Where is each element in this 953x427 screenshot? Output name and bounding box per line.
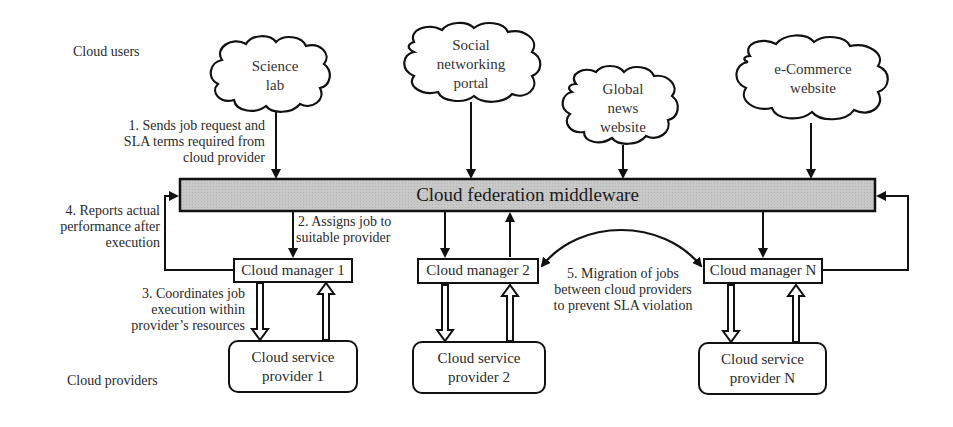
label-cloud-providers: Cloud providers: [67, 373, 158, 389]
cloud-manager-n: Cloud manager N: [703, 258, 823, 284]
cloud-service-provider-1: Cloud service provider 1: [228, 340, 358, 393]
hollow-arrow-down-n: [723, 285, 739, 342]
step-4-label: 4. Reports actual performance after exec…: [30, 203, 160, 251]
step-1-label: 1. Sends job request and SLA terms requi…: [95, 118, 265, 166]
cloud-service-provider-2: Cloud service provider 2: [412, 341, 546, 394]
cloud-global-news-text: Global news website: [583, 80, 663, 137]
cloud-social-networking-text: Social networking portal: [421, 36, 521, 93]
middleware-title: Cloud federation middleware: [180, 184, 875, 206]
hollow-arrow-down-2: [437, 285, 453, 341]
step-5-label: 5. Migration of jobs between cloud provi…: [538, 266, 708, 314]
migration-arrow: [542, 230, 701, 266]
step-2-label: 2. Assigns job to suitable provider: [296, 214, 416, 246]
step-3-label: 3. Coordinates job execution within prov…: [100, 286, 245, 334]
cloud-ecommerce-text: e-Commerce website: [763, 60, 863, 98]
hollow-arrow-up-2: [502, 285, 518, 341]
hollow-arrow-up-1: [318, 283, 334, 340]
cloud-science-lab-text: Science lab: [235, 57, 315, 95]
cloud-manager-1: Cloud manager 1: [233, 258, 353, 283]
hollow-arrow-up-n: [788, 285, 804, 342]
hollow-arrow-down-1: [252, 283, 268, 340]
cloud-service-provider-n: Cloud service provider N: [698, 342, 827, 395]
cloud-manager-2: Cloud manager 2: [417, 258, 539, 284]
label-cloud-users: Cloud users: [73, 44, 140, 60]
